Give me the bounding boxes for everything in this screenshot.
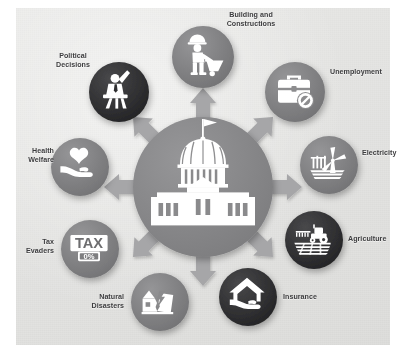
- arrow-east: [271, 174, 302, 200]
- tax-sign-line2: 0%: [84, 252, 95, 261]
- label-political-decisions: Political Decisions: [46, 52, 100, 69]
- arrow-west: [104, 174, 135, 200]
- label-natural-disasters: Natural Disasters: [74, 293, 124, 310]
- node-natural-disasters[interactable]: [131, 273, 189, 331]
- node-circle-health-welfare[interactable]: [51, 138, 109, 196]
- label-tax-evaders: Tax Evaders: [14, 238, 54, 255]
- node-circle-insurance[interactable]: [219, 268, 277, 326]
- label-electricity: Electricity: [362, 149, 406, 158]
- node-political-decisions[interactable]: [89, 62, 149, 122]
- node-electricity[interactable]: [300, 136, 358, 194]
- node-unemployment[interactable]: [265, 62, 325, 122]
- node-agriculture[interactable]: [285, 211, 343, 269]
- arrow-south: [190, 255, 216, 286]
- label-agriculture: Agriculture: [348, 235, 404, 244]
- center-hub[interactable]: [133, 117, 273, 257]
- node-health-welfare[interactable]: [51, 138, 109, 196]
- label-unemployment: Unemployment: [330, 68, 404, 77]
- label-health-welfare: Health Welfare: [10, 147, 54, 164]
- node-tax-evaders[interactable]: TAX 0%: [61, 220, 119, 278]
- label-insurance: Insurance: [283, 293, 337, 302]
- infographic-diagram: TAX 0%: [0, 0, 407, 359]
- arrow-north: [190, 88, 216, 119]
- node-building-and-constructions[interactable]: [172, 26, 234, 88]
- label-building-and-constructions: Building and Constructions: [202, 11, 300, 28]
- node-insurance[interactable]: [219, 268, 277, 326]
- tax-sign-line1: TAX: [75, 235, 103, 251]
